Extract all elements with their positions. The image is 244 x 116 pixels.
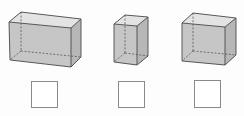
front-face xyxy=(114,24,137,65)
front-face xyxy=(182,23,225,65)
worksheet-diagram xyxy=(0,0,244,116)
cuboid-2-tall xyxy=(114,15,148,65)
answer-box-3[interactable] xyxy=(194,80,221,108)
front-face xyxy=(9,22,71,67)
answer-box-1[interactable] xyxy=(31,81,58,108)
cuboid-1-wide xyxy=(9,12,81,67)
answer-box-2[interactable] xyxy=(118,81,145,108)
cuboid-3-medium xyxy=(182,13,236,65)
